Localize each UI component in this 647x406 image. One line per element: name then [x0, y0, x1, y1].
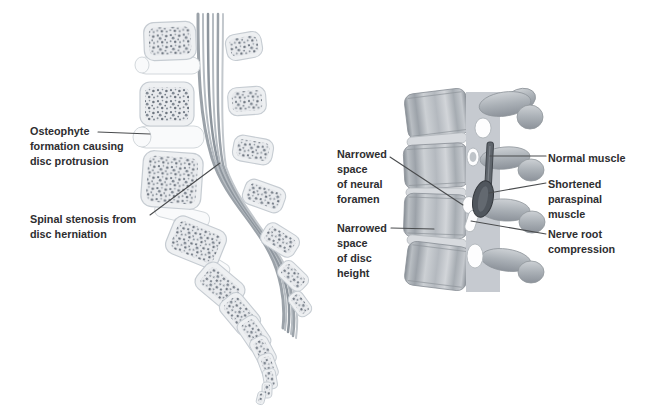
- figure-canvas: Osteophyte formation causing disc protru…: [0, 0, 647, 406]
- label-normal-muscle: Normal muscle: [548, 151, 625, 166]
- label-neural-foramen: Narrowed space of neural foramen: [337, 147, 387, 207]
- label-paraspinal: Shortened paraspinal muscle: [548, 177, 602, 222]
- sacrum-coccyx: [216, 289, 280, 405]
- lateral-spine-illustration: [403, 84, 545, 292]
- spinous-processes: [224, 30, 314, 319]
- sagittal-spine-illustration: [133, 14, 314, 405]
- lateral-vertebral-bodies: [403, 87, 471, 291]
- label-disc-height: Narrowed space of disc height: [337, 221, 387, 281]
- label-osteophyte: Osteophyte formation causing disc protru…: [30, 124, 124, 169]
- label-stenosis: Spinal stenosis from disc herniation: [30, 212, 136, 242]
- label-nerve-root: Nerve root compression: [548, 227, 615, 257]
